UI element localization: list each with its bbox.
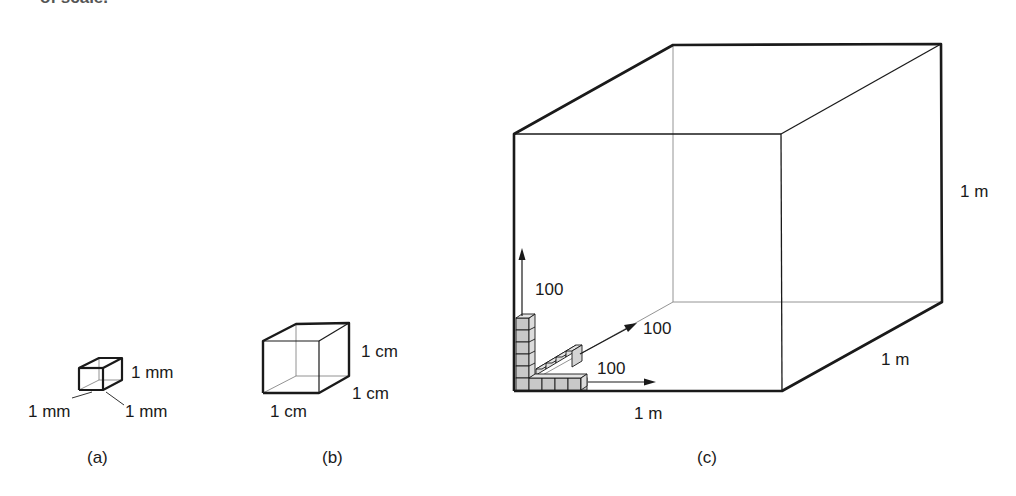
cube-a-height-label: 1 mm bbox=[131, 364, 174, 381]
cube-b-depth-label: 1 cm bbox=[352, 385, 389, 402]
cube-a-width-label: 1 mm bbox=[28, 403, 71, 420]
caption-a: (a) bbox=[87, 449, 108, 466]
arrows bbox=[519, 248, 657, 386]
cube-a bbox=[72, 358, 124, 405]
arrow-diagonal-label: 100 bbox=[643, 320, 671, 337]
cube-c-depth-label: 1 m bbox=[881, 351, 909, 368]
caption-b: (b) bbox=[322, 449, 343, 466]
caption-c: (c) bbox=[697, 449, 717, 466]
unit-cube-stacks bbox=[516, 314, 587, 390]
cube-b-width-label: 1 cm bbox=[270, 403, 307, 420]
arrow-vertical-label: 100 bbox=[535, 281, 563, 298]
cube-c bbox=[514, 44, 942, 391]
cube-c-width-label: 1 m bbox=[634, 405, 662, 422]
cube-c-height-label: 1 m bbox=[960, 183, 988, 200]
cube-diagram bbox=[0, 0, 1016, 496]
arrow-horizontal-label: 100 bbox=[597, 360, 625, 377]
cube-b bbox=[263, 323, 349, 393]
cube-b-height-label: 1 cm bbox=[361, 343, 398, 360]
cube-a-depth-label: 1 mm bbox=[125, 403, 168, 420]
